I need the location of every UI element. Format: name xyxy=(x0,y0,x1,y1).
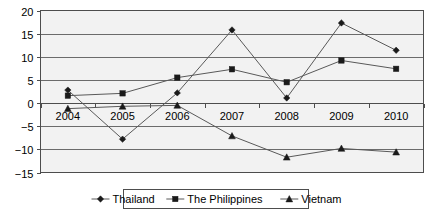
x-tick-label: 2009 xyxy=(329,110,353,122)
y-tick-label: 10 xyxy=(21,52,33,64)
line-chart: 20151050−5−10−15200420052006200720082009… xyxy=(0,0,431,218)
x-tick-label: 2006 xyxy=(165,110,189,122)
data-point-marker xyxy=(393,66,398,71)
legend-label: Thailand xyxy=(113,193,155,205)
y-tick-label: 20 xyxy=(21,6,33,18)
x-tick-label: 2008 xyxy=(274,110,298,122)
legend-label: Vietnam xyxy=(301,193,341,205)
data-point-marker xyxy=(120,91,125,96)
y-tick-label: 15 xyxy=(21,29,33,41)
data-point-marker xyxy=(175,75,180,80)
y-tick-label: −10 xyxy=(15,144,34,156)
y-tick-label: 0 xyxy=(27,98,33,110)
chart-legend: ThailandThe PhilippinesVietnam xyxy=(92,190,342,209)
x-tick-label: 2007 xyxy=(220,110,244,122)
y-tick-label: −15 xyxy=(15,168,34,180)
y-tick-label: −5 xyxy=(21,121,34,133)
x-tick-label: 2005 xyxy=(110,110,134,122)
y-axis-ticks: 20151050−5−10−15 xyxy=(15,6,41,180)
data-point-marker xyxy=(339,58,344,63)
data-point-marker xyxy=(65,93,70,98)
legend-item-thailand[interactable]: Thailand xyxy=(92,193,155,205)
data-point-marker xyxy=(229,67,234,72)
legend-label: The Philippines xyxy=(187,193,263,205)
legend-marker-square-icon xyxy=(173,196,178,201)
y-tick-label: 5 xyxy=(27,75,33,87)
data-point-marker xyxy=(284,80,289,85)
chart-canvas: 20151050−5−10−15200420052006200720082009… xyxy=(0,0,431,218)
legend-marker-diamond-icon xyxy=(97,196,103,202)
x-tick-label: 2010 xyxy=(384,110,408,122)
